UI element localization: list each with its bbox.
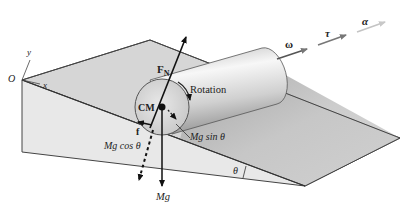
weight-label: Mg <box>155 191 170 202</box>
origin-label: O <box>8 73 15 84</box>
angle-label: θ <box>233 165 238 176</box>
y-axis <box>22 60 30 80</box>
omega-label: ω <box>285 38 293 50</box>
alpha-label: α <box>362 15 369 27</box>
rolling-cylinder-diagram: θ O y x Rotation Mg sin θ FN CM Mg Mg co… <box>0 0 415 212</box>
center-of-mass-label: CM <box>138 102 155 113</box>
omega-vector <box>277 49 307 59</box>
y-axis-label: y <box>26 47 31 57</box>
torque-label: τ <box>325 27 331 39</box>
rotation-label: Rotation <box>190 84 227 95</box>
x-axis-label: x <box>42 80 47 90</box>
torque-vector <box>318 35 346 45</box>
mg-sin-label: Mg sin θ <box>189 131 225 142</box>
mg-cos-label: Mg cos θ <box>103 140 141 151</box>
